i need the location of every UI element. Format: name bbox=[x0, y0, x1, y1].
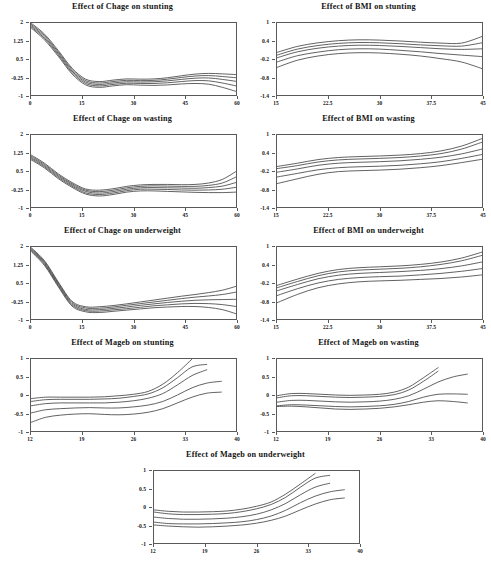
y-tick-label: -0.5 bbox=[0, 411, 23, 417]
y-tick-mark bbox=[26, 59, 29, 60]
x-tick-label: 26 bbox=[377, 436, 382, 442]
x-tick-label: 60 bbox=[234, 100, 239, 106]
series-line-upper-95 bbox=[31, 23, 236, 82]
series-line-upper-80 bbox=[31, 156, 236, 192]
y-tick-label: -1 bbox=[123, 541, 146, 547]
x-tick-mark bbox=[483, 208, 484, 211]
x-tick-label: 30 bbox=[131, 100, 136, 106]
series-line-lower-95 bbox=[154, 498, 344, 527]
y-tick-label: 0.4 bbox=[246, 38, 269, 44]
plot-area-chage-underweight bbox=[30, 246, 237, 320]
y-tick-label: 1 bbox=[246, 355, 269, 361]
x-tick-mark bbox=[483, 320, 484, 323]
plot-area-bmi-wasting bbox=[276, 134, 483, 208]
y-tick-label: 0.4 bbox=[246, 262, 269, 268]
x-tick-mark bbox=[328, 208, 329, 211]
x-tick-label: 0 bbox=[29, 324, 32, 330]
y-tick-mark bbox=[272, 283, 275, 284]
y-tick-label: -1 bbox=[0, 317, 23, 323]
y-tick-mark bbox=[26, 302, 29, 303]
chart-panel-bmi-underweight: Effect of BMI on underweight-1.4-0.8-0.2… bbox=[246, 226, 491, 338]
x-tick-label: 19 bbox=[79, 436, 84, 442]
y-tick-mark bbox=[272, 59, 275, 60]
x-tick-label: 40 bbox=[234, 436, 239, 442]
x-tick-label: 0 bbox=[29, 212, 32, 218]
y-tick-mark bbox=[272, 208, 275, 209]
x-tick-mark bbox=[82, 208, 83, 211]
x-tick-mark bbox=[134, 432, 135, 435]
y-tick-mark bbox=[272, 377, 275, 378]
y-tick-label: -0.2 bbox=[246, 168, 269, 174]
y-tick-label: 0 bbox=[123, 504, 146, 510]
y-tick-label: -0.25 bbox=[0, 75, 23, 81]
y-tick-mark bbox=[272, 190, 275, 191]
y-tick-mark bbox=[26, 171, 29, 172]
y-tick-mark bbox=[26, 246, 29, 247]
series-line-estimate bbox=[277, 374, 467, 402]
series-line-lower-80 bbox=[31, 250, 236, 311]
x-tick-label: 33 bbox=[183, 436, 188, 442]
x-tick-label: 19 bbox=[202, 548, 207, 554]
plot-area-bmi-underweight bbox=[276, 246, 483, 320]
x-tick-mark bbox=[134, 320, 135, 323]
x-tick-label: 30 bbox=[377, 212, 382, 218]
series-line-upper-95 bbox=[31, 155, 236, 190]
x-tick-mark bbox=[328, 320, 329, 323]
x-tick-mark bbox=[483, 96, 484, 99]
chart-title-chage-underweight: Effect of Chage on underweight bbox=[0, 226, 245, 235]
y-tick-label: 2 bbox=[0, 131, 23, 137]
chart-title-chage-wasting: Effect of Chage on wasting bbox=[0, 114, 245, 123]
x-tick-label: 15 bbox=[273, 212, 278, 218]
x-tick-mark bbox=[237, 432, 238, 435]
y-tick-mark bbox=[26, 22, 29, 23]
x-tick-mark bbox=[276, 320, 277, 323]
x-tick-label: 15 bbox=[79, 324, 84, 330]
x-tick-label: 40 bbox=[480, 436, 485, 442]
series-line-upper-95 bbox=[277, 368, 438, 396]
x-tick-label: 33 bbox=[429, 436, 434, 442]
x-tick-mark bbox=[205, 544, 206, 547]
x-tick-mark bbox=[30, 432, 31, 435]
y-tick-mark bbox=[272, 265, 275, 266]
x-tick-label: 45 bbox=[480, 212, 485, 218]
y-tick-mark bbox=[272, 171, 275, 172]
y-tick-label: 2 bbox=[0, 19, 23, 25]
y-tick-mark bbox=[26, 265, 29, 266]
y-tick-label: -0.8 bbox=[246, 75, 269, 81]
x-tick-label: 37.5 bbox=[427, 100, 436, 106]
y-tick-mark bbox=[272, 246, 275, 247]
x-tick-label: 30 bbox=[131, 212, 136, 218]
chart-title-chage-stunting: Effect of Chage on stunting bbox=[0, 2, 245, 11]
chart-title-mageb-wasting: Effect of Mageb on wasting bbox=[246, 338, 491, 347]
x-tick-mark bbox=[308, 544, 309, 547]
y-tick-mark bbox=[26, 41, 29, 42]
x-tick-mark bbox=[237, 208, 238, 211]
y-tick-mark bbox=[272, 78, 275, 79]
x-tick-mark bbox=[134, 208, 135, 211]
y-tick-mark bbox=[272, 395, 275, 396]
x-tick-mark bbox=[185, 96, 186, 99]
x-tick-label: 15 bbox=[79, 100, 84, 106]
x-tick-mark bbox=[134, 96, 135, 99]
chart-panel-bmi-stunting: Effect of BMI on stunting-1.4-0.8-0.20.4… bbox=[246, 2, 491, 114]
y-tick-label: -1 bbox=[246, 429, 269, 435]
x-tick-label: 15 bbox=[273, 324, 278, 330]
y-tick-mark bbox=[26, 153, 29, 154]
x-tick-label: 26 bbox=[254, 548, 259, 554]
y-tick-mark bbox=[26, 134, 29, 135]
y-tick-mark bbox=[149, 470, 152, 471]
x-tick-label: 12 bbox=[150, 548, 155, 554]
x-tick-mark bbox=[431, 96, 432, 99]
x-tick-label: 19 bbox=[325, 436, 330, 442]
x-tick-label: 37.5 bbox=[427, 324, 436, 330]
y-tick-label: -1.4 bbox=[246, 93, 269, 99]
plot-area-mageb-stunting bbox=[30, 358, 237, 432]
x-tick-label: 30 bbox=[377, 324, 382, 330]
y-tick-mark bbox=[26, 414, 29, 415]
y-tick-mark bbox=[26, 432, 29, 433]
chart-title-bmi-wasting: Effect of BMI on wasting bbox=[246, 114, 491, 123]
y-tick-mark bbox=[26, 190, 29, 191]
y-tick-label: 0.5 bbox=[123, 486, 146, 492]
y-tick-label: 0.5 bbox=[0, 56, 23, 62]
series-line-upper-95 bbox=[31, 359, 192, 399]
